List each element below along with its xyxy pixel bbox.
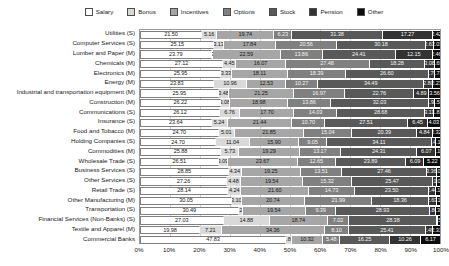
bar-segment-options[interactable]: 10.27 <box>286 80 318 88</box>
bar-segment-salary[interactable]: 28.85 <box>140 168 229 176</box>
bar-row[interactable]: 19.987.2134.368.1025.412.492.31 <box>140 226 440 234</box>
bar-segment-stock[interactable]: 27.51 <box>325 119 408 127</box>
bar-segment-bonus[interactable]: 4.24 <box>228 187 241 195</box>
bar-segment-other[interactable]: 1.02 <box>437 168 440 176</box>
bar-segment-salary[interactable]: 21.50 <box>140 31 202 39</box>
bar-segment-stock[interactable]: 25.41 <box>349 226 425 234</box>
bar-segment-pension[interactable]: 3.11 <box>425 109 435 117</box>
bar-segment-options[interactable]: 18.39 <box>288 70 346 78</box>
bar-row[interactable]: 25.953.4821.2516.9722.764.893.56 <box>140 89 440 97</box>
bar-segment-options[interactable]: 27.48 <box>286 60 370 68</box>
bar-segment-options[interactable]: 13.51 <box>301 168 342 176</box>
bar-segment-bonus[interactable]: 14.88 <box>224 216 270 224</box>
bar-segment-stock[interactable]: 30.18 <box>337 41 426 49</box>
bar-segment-stock[interactable]: 20.39 <box>352 129 417 137</box>
bar-segment-salary[interactable]: 27.12 <box>140 60 223 68</box>
bar-segment-bonus[interactable]: 10.96 <box>214 80 248 88</box>
bar-row[interactable]: 27.264.4819.5415.3225.471.101.05 <box>140 177 440 185</box>
bar-segment-options[interactable]: 20.56 <box>276 41 337 49</box>
bar-segment-pension[interactable]: 12.15 <box>396 50 433 58</box>
bar-segment-stock[interactable]: 16.25 <box>340 236 390 244</box>
bar-segment-incentives[interactable]: 19.25 <box>242 168 301 176</box>
bar-segment-pension[interactable]: 6.45 <box>408 119 428 127</box>
legend-item-salary[interactable]: Salary <box>85 8 114 16</box>
bar-segment-incentives[interactable]: 20.74 <box>242 197 306 205</box>
bar-row[interactable]: 25.153.1317.8420.5630.182.632.03 <box>140 41 440 49</box>
bar-segment-pension[interactable]: 2.80 <box>424 80 433 88</box>
bar-segment-bonus[interactable]: 3.10 <box>232 197 241 205</box>
bar-segment-options[interactable]: 9.39 <box>306 207 336 215</box>
bar-row[interactable]: 24.705.0121.8515.0420.394.842.32 <box>140 129 440 137</box>
bar-segment-other[interactable]: 1.10 <box>437 197 440 205</box>
bar-segment-other[interactable]: 1.54 <box>435 99 440 107</box>
bar-segment-bonus[interactable]: 4.48 <box>227 177 241 185</box>
bar-segment-stock[interactable]: 18.28 <box>370 60 426 68</box>
bar-row[interactable]: 26.223.0818.9813.8632.031.921.54 <box>140 99 440 107</box>
bar-segment-incentives[interactable]: 19.54 <box>241 177 303 185</box>
bar-segment-bonus[interactable]: 3.08 <box>221 99 230 107</box>
bar-segment-stock[interactable]: 31.38 <box>292 31 383 39</box>
bar-segment-stock[interactable]: 25.47 <box>352 177 433 185</box>
bar-segment-bonus[interactable]: 5.73 <box>221 148 239 156</box>
bar-segment-incentives[interactable]: 19.54 <box>243 207 306 215</box>
bar-segment-options[interactable]: 6.23 <box>274 31 292 39</box>
bar-segment-other[interactable]: 1.81 <box>434 109 440 117</box>
legend-item-other[interactable]: Other <box>357 8 383 16</box>
bar-segment-incentives[interactable]: 15.90 <box>250 138 299 146</box>
bar-segment-bonus[interactable]: 4.34 <box>229 168 242 176</box>
bar-segment-incentives[interactable]: 34.36 <box>222 226 325 234</box>
legend-item-pension[interactable]: Pension <box>309 8 342 16</box>
bar-segment-options[interactable]: 13.17 <box>300 148 341 156</box>
bar-segment-stock[interactable]: 28.68 <box>337 109 425 117</box>
bar-segment-salary[interactable]: 24.70 <box>140 138 216 146</box>
bar-row[interactable]: 47.831.8810.325.4816.2510.266.17 <box>140 236 440 244</box>
bar-segment-bonus[interactable]: 5.01 <box>219 129 235 137</box>
bar-segment-options[interactable]: 14.03 <box>294 109 337 117</box>
bar-segment-pension[interactable]: 4.89 <box>414 89 429 97</box>
bar-segment-bonus[interactable]: 3.48 <box>219 89 230 97</box>
bar-row[interactable]: 27.124.4516.0727.4818.283.081.69 <box>140 60 440 68</box>
bar-segment-salary[interactable]: 23.79 <box>140 50 212 58</box>
bar-segment-salary[interactable]: 23.83 <box>140 80 214 88</box>
bar-segment-options[interactable]: 9.05 <box>299 138 327 146</box>
bar-segment-pension[interactable]: 6.07 <box>417 148 436 156</box>
bar-segment-options[interactable]: 7.02 <box>328 216 350 224</box>
bar-segment-bonus[interactable]: 5.24 <box>212 119 228 127</box>
bar-segment-incentives[interactable]: 21.60 <box>241 187 309 195</box>
bar-segment-salary[interactable]: 25.15 <box>140 41 214 49</box>
bar-row[interactable]: 25.885.7319.2913.1724.316.071.14 <box>140 148 440 156</box>
bar-segment-bonus[interactable]: 6.76 <box>220 109 241 117</box>
bar-segment-salary[interactable]: 28.14 <box>140 187 228 195</box>
bar-segment-options[interactable]: 21.99 <box>305 197 372 205</box>
bar-segment-bonus[interactable]: 3.09 <box>219 158 228 166</box>
legend-item-incentives[interactable]: Incentives <box>170 8 209 16</box>
bar-segment-other[interactable]: 2.46 <box>433 50 440 58</box>
bar-segment-options[interactable]: 15.32 <box>303 177 352 185</box>
bar-segment-stock[interactable]: 23.50 <box>355 187 429 195</box>
bar-segment-options[interactable]: 13.86 <box>288 99 331 107</box>
bar-segment-incentives[interactable]: 18.98 <box>230 99 288 107</box>
bar-segment-stock[interactable]: 22.76 <box>345 89 414 97</box>
bar-segment-incentives[interactable]: 17.70 <box>240 109 294 117</box>
bar-segment-incentives[interactable]: 23.67 <box>228 158 298 166</box>
bar-row[interactable]: 28.854.3419.2513.5127.463.361.02 <box>140 168 440 176</box>
bar-row[interactable]: 23.8310.9612.5310.2734.492.802.23 <box>140 80 440 88</box>
bar-row[interactable]: 26.126.7617.7014.0328.683.111.81 <box>140 109 440 117</box>
bar-segment-options[interactable]: 12.65 <box>298 158 336 166</box>
bar-segment-stock[interactable]: 18.36 <box>372 197 428 205</box>
bar-segment-pension[interactable]: 6.09 <box>406 158 424 166</box>
bar-row[interactable]: 24.7011.0415.909.0534.111.481.13 <box>140 138 440 146</box>
bar-segment-other[interactable]: 0.52 <box>438 216 440 224</box>
bar-segment-bonus[interactable]: 3.33 <box>221 70 231 78</box>
bar-segment-incentives[interactable]: 16.07 <box>236 60 285 68</box>
bar-segment-stock[interactable]: 24.41 <box>323 50 396 58</box>
bar-segment-incentives[interactable]: 21.44 <box>228 119 293 127</box>
bar-segment-other[interactable]: 1.31 <box>436 207 440 215</box>
bar-segment-incentives[interactable]: 12.53 <box>247 80 286 88</box>
bar-segment-pension[interactable]: 2.63 <box>426 41 434 49</box>
bar-row[interactable]: 26.513.0923.6712.6523.896.095.22 <box>140 158 440 166</box>
bar-segment-other[interactable]: 1.05 <box>437 177 440 185</box>
bar-segment-bonus[interactable]: 4.45 <box>223 60 237 68</box>
bar-segment-bonus[interactable]: 5.16 <box>202 31 217 39</box>
bar-row[interactable]: 30.491.2819.549.3928.931.801.31 <box>140 207 440 215</box>
